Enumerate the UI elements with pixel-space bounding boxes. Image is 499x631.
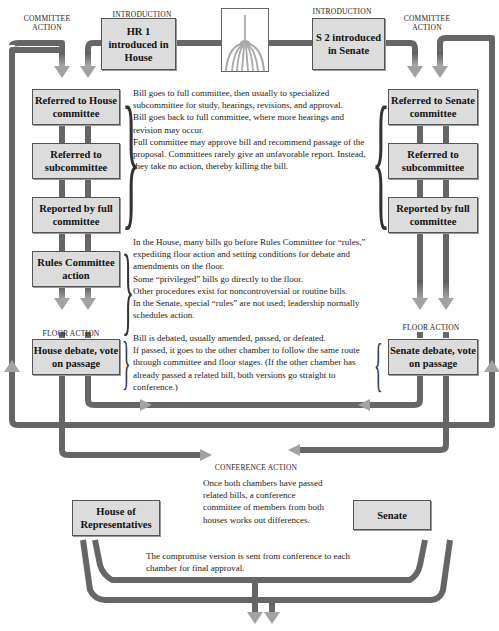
final-senate-box: Senate bbox=[353, 500, 431, 530]
floor-note-2: If passed, it goes to the other chamber … bbox=[133, 344, 379, 393]
committee-note-2: Bill goes back to full committee, where … bbox=[133, 111, 373, 135]
rules-note-3: Other procedures exist for noncontrovers… bbox=[133, 285, 379, 297]
rules-note-4: In the Senate, special “rules” are not u… bbox=[133, 297, 379, 321]
senate-debate-box: Senate debate, vote on passage bbox=[388, 339, 478, 375]
rules-note-1: In the House, many bills go before Rules… bbox=[133, 236, 379, 273]
compromise-note: The compromise version is sent from conf… bbox=[146, 550, 376, 574]
house-intro-box: HR 1 introduced in House bbox=[101, 18, 176, 70]
house-referred-committee-box: Referred to House committee bbox=[32, 89, 120, 125]
senate-referred-subcommittee-box: Referred to subcommittee bbox=[388, 143, 478, 179]
caption-floor-action-left: FLOOR ACTION bbox=[36, 329, 106, 338]
house-referred-subcommittee-box: Referred to subcommittee bbox=[32, 143, 120, 179]
conference-note: Once both chambers have passed related b… bbox=[203, 477, 328, 526]
senate-intro-box: S 2 introduced in Senate bbox=[312, 18, 385, 70]
floor-note: Bill is debated, usually amended, passed… bbox=[133, 332, 379, 393]
senate-reported-box: Reported by full committee bbox=[388, 197, 478, 233]
final-house-box: House of Representatives bbox=[72, 500, 160, 536]
committee-note-3: Full committee may approve bill and reco… bbox=[133, 136, 373, 173]
house-rules-committee-box: Rules Committee action bbox=[32, 251, 120, 287]
brace-senate-committee: { bbox=[372, 84, 390, 234]
caption-floor-action-right: FLOOR ACTION bbox=[396, 323, 466, 332]
brace-floor: } bbox=[122, 332, 131, 392]
rules-note-2: Some “privileged” bills go directly to t… bbox=[133, 273, 379, 285]
senate-referred-committee-box: Referred to Senate committee bbox=[388, 89, 478, 125]
house-debate-box: House debate, vote on passage bbox=[32, 339, 120, 375]
house-reported-box: Reported by full committee bbox=[32, 197, 120, 233]
capitol-dome-icon bbox=[221, 8, 269, 72]
caption-conference-action: CONFERENCE ACTION bbox=[208, 463, 304, 472]
caption-committee-action-right: COMMITTEE ACTION bbox=[400, 14, 454, 32]
floor-note-1: Bill is debated, usually amended, passed… bbox=[133, 332, 379, 344]
caption-committee-action-left: COMMITTEE ACTION bbox=[20, 14, 74, 32]
committee-note-1: Bill goes to full committee, then usuall… bbox=[133, 87, 373, 111]
rules-note: In the House, many bills go before Rules… bbox=[133, 236, 379, 321]
committee-note: Bill goes to full committee, then usuall… bbox=[133, 87, 373, 172]
caption-introduction-right: INTRODUCTION bbox=[304, 7, 380, 16]
